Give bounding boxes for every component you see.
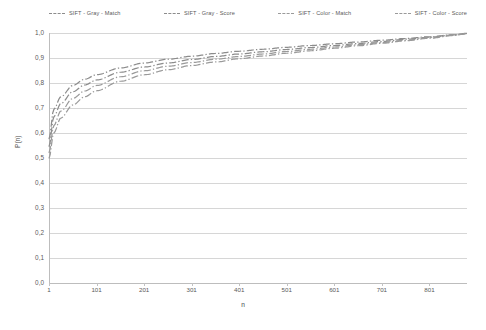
chart-legend: SIFT - Gray - MatchSIFT - Gray - ScoreSI…	[49, 10, 467, 16]
y-tick-label: 0,8	[0, 79, 44, 86]
legend-item[interactable]: SIFT - Gray - Score	[164, 10, 235, 16]
x-axis-tick-labels: 1101201301401501601701801	[49, 286, 467, 298]
legend-label: SIFT - Gray - Score	[184, 10, 235, 16]
y-tick-label: 0,0	[0, 279, 44, 286]
legend-swatch-icon	[278, 13, 294, 14]
y-tick-label: 0,6	[0, 129, 44, 136]
legend-swatch-icon	[164, 13, 180, 14]
legend-item[interactable]: SIFT - Color - Match	[278, 10, 351, 16]
legend-swatch-icon	[49, 13, 65, 14]
x-tick-label: 701	[377, 286, 387, 293]
series-lines	[49, 33, 467, 283]
y-axis-title: P(n)	[14, 136, 21, 148]
y-tick-label: 0,3	[0, 204, 44, 211]
series-line	[49, 34, 467, 147]
y-tick-label: 0,4	[0, 179, 44, 186]
x-tick-label: 101	[91, 286, 101, 293]
x-tick-label: 1	[47, 286, 50, 293]
plot-area	[49, 33, 467, 283]
x-axis-title: n	[0, 301, 486, 308]
x-tick-label: 601	[329, 286, 339, 293]
y-tick-label: 0,2	[0, 229, 44, 236]
y-tick-label: 0,7	[0, 104, 44, 111]
cmc-chart: SIFT - Gray - MatchSIFT - Gray - ScoreSI…	[0, 0, 486, 330]
legend-label: SIFT - Gray - Match	[69, 10, 121, 16]
legend-label: SIFT - Color - Score	[415, 10, 467, 16]
y-tick-label: 0,1	[0, 254, 44, 261]
x-tick-label: 201	[139, 286, 149, 293]
y-tick-label: 0,5	[0, 154, 44, 161]
legend-item[interactable]: SIFT - Gray - Match	[49, 10, 121, 16]
x-tick-label: 501	[282, 286, 292, 293]
x-tick-label: 301	[186, 286, 196, 293]
legend-swatch-icon	[395, 13, 411, 14]
series-line	[49, 33, 467, 139]
legend-item[interactable]: SIFT - Color - Score	[395, 10, 467, 16]
y-tick-label: 0,9	[0, 54, 44, 61]
legend-label: SIFT - Color - Match	[298, 10, 351, 16]
x-tick-label: 401	[234, 286, 244, 293]
x-tick-label: 801	[424, 286, 434, 293]
y-tick-label: 1,0	[0, 29, 44, 36]
